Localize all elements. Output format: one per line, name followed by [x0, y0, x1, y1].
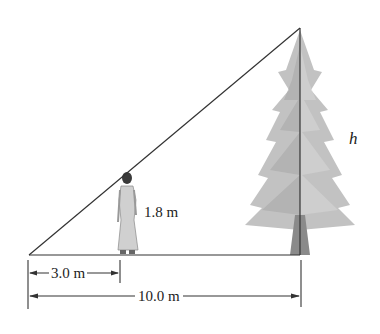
short-distance-label: 3.0 m	[49, 265, 87, 281]
long-distance-label: 10.0 m	[135, 288, 183, 304]
person-icon	[118, 172, 138, 254]
tree-height-label: h	[349, 131, 358, 147]
person-height-label: 1.8 m	[144, 204, 178, 220]
diagram-canvas	[0, 0, 380, 334]
